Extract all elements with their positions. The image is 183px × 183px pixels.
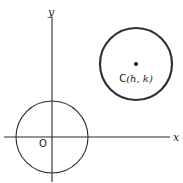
center-coords: (h, k): [126, 73, 153, 84]
x-axis-label: x: [173, 131, 180, 144]
y-axis-label: y: [47, 6, 55, 19]
coordinate-diagram: x y O C(h, k): [0, 0, 183, 183]
origin-label: O: [39, 138, 47, 149]
center-label: C(h, k): [119, 73, 153, 84]
center-name: C: [119, 73, 126, 84]
center-point: [134, 62, 138, 66]
